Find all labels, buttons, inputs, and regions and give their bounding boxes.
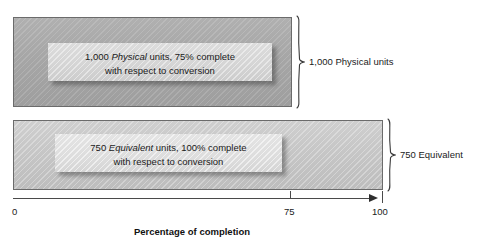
caption-physical-emphasis: Physical [111,51,146,62]
caption-physical-line1: 1,000 Physical units, 75% complete [48,50,272,64]
caption-plate-equivalent: 750 Equivalent units, 100% complete with… [55,134,282,172]
caption-physical-line1-pre: 1,000 [85,51,111,62]
axis-tick-75 [290,191,291,199]
brace-physical [294,15,308,113]
caption-equivalent-line1-post: units, 100% complete [153,142,246,153]
axis-tick-100 [382,191,383,203]
axis-tick-label-75: 75 [284,206,295,217]
caption-physical-line1-post: units, 75% complete [147,51,235,62]
axis-tick-label-0: 0 [12,206,17,217]
caption-physical-line2: with respect to conversion [48,64,272,78]
axis-line [13,198,371,199]
caption-equivalent-emphasis: Equivalent [109,142,153,153]
brace-label-physical: 1,000 Physical units [309,56,394,67]
brace-equivalent-icon [385,118,399,192]
brace-label-equivalent: 750 Equivalent [400,149,463,160]
equivalent-units-diagram: 1,000 Physical units, 75% complete with … [0,0,487,246]
caption-equivalent-line1-pre: 750 [90,142,109,153]
caption-equivalent-line1: 750 Equivalent units, 100% complete [55,141,282,155]
caption-plate-physical: 1,000 Physical units, 75% complete with … [48,43,272,81]
axis-title: Percentage of completion [13,226,371,237]
caption-equivalent-line2: with respect to conversion [55,155,282,169]
brace-physical-icon [294,15,308,109]
axis-arrow-icon [369,194,378,202]
brace-equivalent [385,118,399,196]
axis-tick-label-100: 100 [372,206,388,217]
